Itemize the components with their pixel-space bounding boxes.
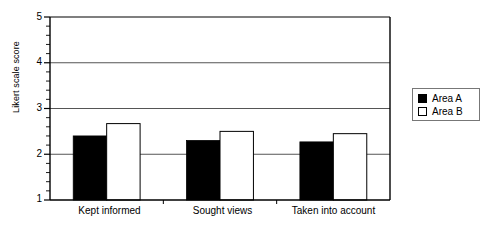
bar-area-a-sought-views [187, 141, 220, 200]
bar-area-b-kept-informed [107, 124, 140, 200]
legend-swatch-area-b-icon [418, 107, 427, 116]
y-axis-minor-ticks [44, 17, 50, 200]
bar-chart-figure: Likert scale score 5 4 3 2 1 Kept inform… [0, 0, 491, 232]
bar-area-a-kept-informed [73, 136, 106, 200]
legend-swatch-area-a-icon [418, 94, 427, 103]
bar-area-b-sought-views [220, 131, 253, 200]
legend-item-area-b: Area B [413, 105, 479, 118]
x-tick-label-taken-into-account: Taken into account [277, 205, 390, 216]
x-tick-label-sought-views: Sought views [166, 205, 279, 216]
legend: Area A Area B [412, 88, 480, 121]
x-tick-label-kept-informed: Kept informed [53, 205, 166, 216]
legend-label-area-a: Area A [432, 93, 462, 104]
bar-area-a-taken-into-account [300, 142, 333, 200]
bar-area-b-taken-into-account [333, 134, 366, 200]
legend-item-area-a: Area A [413, 92, 479, 105]
legend-label-area-b: Area B [432, 106, 463, 117]
bars-layer [73, 124, 367, 200]
